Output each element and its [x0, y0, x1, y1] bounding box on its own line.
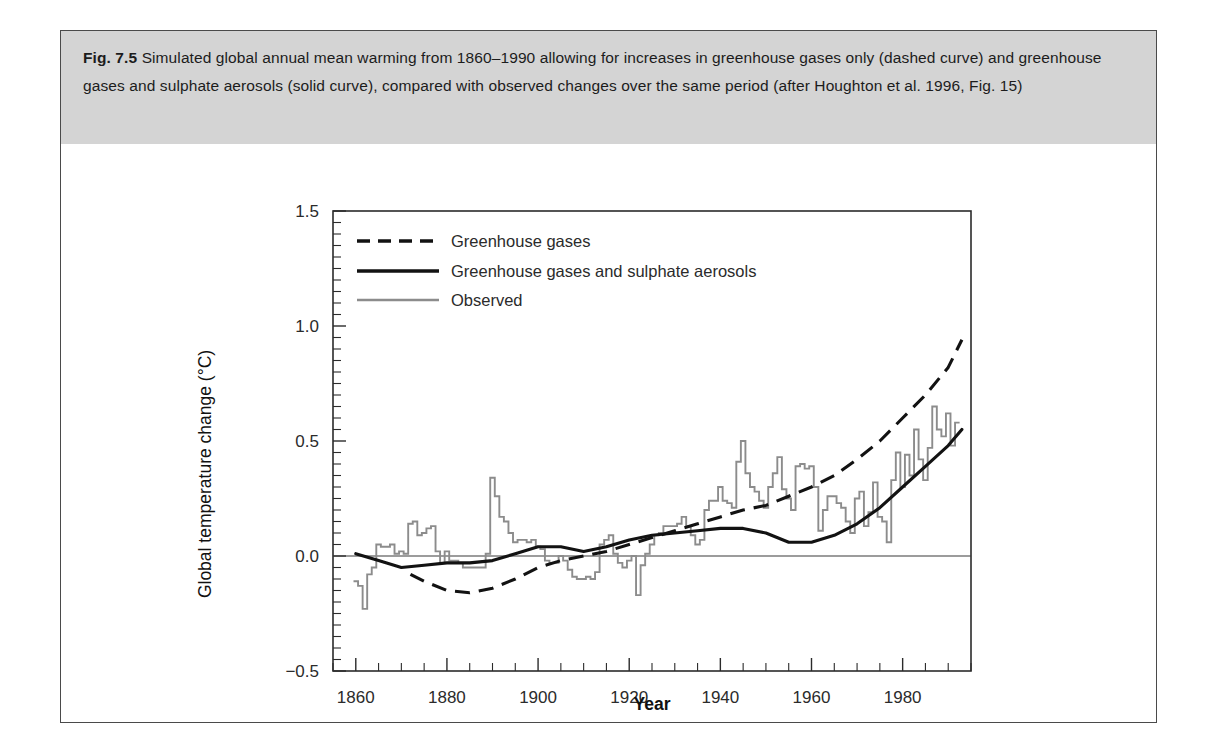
legend-label-greenhouse-gases: Greenhouse gases: [451, 232, 590, 250]
x-tick-label: 1980: [884, 688, 922, 707]
y-tick-labels: −0.50.00.51.01.5: [285, 202, 319, 681]
axis-ticks: [333, 211, 971, 671]
series-greenhouse-gases-line: [410, 340, 961, 593]
x-tick-label: 1860: [337, 688, 375, 707]
y-tick-label: 1.5: [295, 202, 319, 221]
figure-label: Fig. 7.5: [83, 49, 137, 66]
x-tick-label: 1940: [701, 688, 739, 707]
x-tick-labels: 1860188019001920194019601980: [337, 688, 922, 707]
figure-page: Fig. 7.5 Simulated global annual mean wa…: [0, 0, 1205, 745]
chart-area: Global temperature change (°C) −0.50.00.…: [61, 144, 1158, 722]
figure-container: Fig. 7.5 Simulated global annual mean wa…: [60, 30, 1157, 723]
figure-caption-text: Simulated global annual mean warming fro…: [83, 49, 1101, 94]
x-axis-title: Year: [634, 694, 671, 714]
caption-band: Fig. 7.5 Simulated global annual mean wa…: [61, 31, 1156, 144]
y-axis-title: Global temperature change (°C): [195, 350, 215, 598]
x-tick-label: 1900: [519, 688, 557, 707]
plot-frame: [333, 211, 971, 671]
x-tick-label: 1880: [428, 688, 466, 707]
legend-label-observed: Observed: [451, 291, 523, 309]
x-tick-label: 1960: [793, 688, 831, 707]
chart-legend: Greenhouse gases Greenhouse gases and su…: [357, 232, 756, 309]
legend-label-greenhouse-sulphate: Greenhouse gases and sulphate aerosols: [451, 262, 756, 280]
series-greenhouse-sulphate-line: [356, 430, 962, 568]
y-tick-label: −0.5: [285, 662, 319, 681]
y-tick-label: 0.0: [295, 547, 319, 566]
temperature-chart: Global temperature change (°C) −0.50.00.…: [61, 144, 1158, 722]
y-tick-label: 0.5: [295, 432, 319, 451]
figure-caption: Fig. 7.5 Simulated global annual mean wa…: [83, 44, 1133, 100]
y-tick-label: 1.0: [295, 317, 319, 336]
series-observed-line: [354, 407, 960, 609]
y-axis-title-group: Global temperature change (°C): [195, 350, 215, 598]
